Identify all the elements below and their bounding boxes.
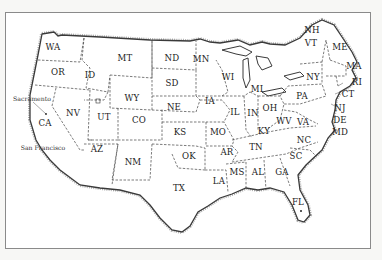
sacramento-dot bbox=[45, 113, 47, 115]
state-label-ky: KY bbox=[258, 126, 270, 136]
state-label-nj: NJ bbox=[334, 103, 345, 113]
state-label-il: IL bbox=[230, 107, 240, 117]
state-label-in: IN bbox=[247, 108, 258, 118]
state-label-ct: CT bbox=[342, 89, 355, 99]
state-label-ar: AR bbox=[220, 147, 233, 157]
state-label-la: LA bbox=[213, 176, 225, 186]
state-label-nh: NH bbox=[304, 25, 319, 35]
state-label-me: ME bbox=[332, 42, 347, 52]
state-label-ca: CA bbox=[38, 118, 51, 128]
state-label-wv: WV bbox=[276, 116, 291, 126]
state-label-fl: FL bbox=[292, 197, 304, 207]
state-label-sc: SC bbox=[290, 151, 303, 161]
state-label-mi: MI bbox=[251, 84, 264, 94]
state-label-mn: MN bbox=[193, 54, 210, 64]
state-label-ia: IA bbox=[205, 96, 215, 106]
state-label-al: AL bbox=[252, 167, 264, 177]
state-label-de: DE bbox=[333, 115, 347, 125]
state-label-wa: WA bbox=[45, 42, 60, 52]
state-label-ny: NY bbox=[306, 72, 320, 82]
city-label-sacramento: Sacramento bbox=[13, 95, 51, 102]
state-label-id: ID bbox=[85, 70, 96, 80]
state-label-nc: NC bbox=[297, 135, 312, 145]
state-label-oh: OH bbox=[263, 103, 278, 113]
state-label-ut: UT bbox=[97, 112, 110, 122]
city-label-san-francisco: San Francisco bbox=[21, 144, 66, 151]
state-label-ga: GA bbox=[275, 167, 288, 177]
state-label-ma: MA bbox=[346, 61, 361, 71]
state-label-mt: MT bbox=[118, 53, 133, 63]
state-label-sd: SD bbox=[165, 78, 178, 88]
state-label-ne: NE bbox=[167, 102, 181, 112]
state-label-nd: ND bbox=[165, 53, 180, 63]
state-label-az: AZ bbox=[91, 144, 104, 154]
state-label-ms: MS bbox=[229, 167, 244, 177]
state-label-va: VA bbox=[297, 117, 309, 127]
state-label-or: OR bbox=[51, 67, 65, 77]
fl-dot bbox=[300, 210, 302, 212]
state-label-vt: VT bbox=[305, 38, 317, 48]
state-label-nv: NV bbox=[66, 108, 80, 118]
state-label-wy: WY bbox=[125, 93, 140, 103]
state-label-wi: WI bbox=[222, 72, 235, 82]
state-label-md: MD bbox=[332, 127, 348, 137]
state-label-ok: OK bbox=[182, 151, 196, 161]
state-label-co: CO bbox=[132, 115, 146, 125]
us-map-outline bbox=[0, 0, 382, 260]
state-label-ri: RI bbox=[352, 77, 362, 87]
state-label-tx: TX bbox=[173, 183, 185, 193]
state-label-mo: MO bbox=[210, 127, 226, 137]
state-label-ks: KS bbox=[174, 127, 187, 137]
state-label-nm: NM bbox=[125, 157, 142, 167]
state-label-pa: PA bbox=[296, 91, 308, 101]
state-label-tn: TN bbox=[249, 142, 263, 152]
